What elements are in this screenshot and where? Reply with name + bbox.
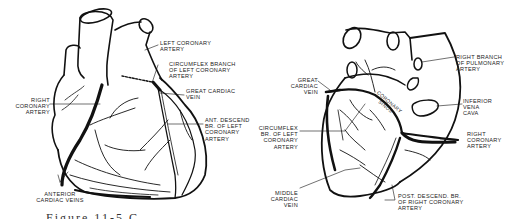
label-right-branch-pulmonary: RIGHT BRANCH OF PULMONARY ARTERY xyxy=(456,54,504,73)
label-great-cardiac-vein-posterior: GREAT CARDIAC VEIN xyxy=(280,77,318,96)
label-ant-descend-br: ANT. DESCEND BR. OF LEFT CORONARY ARTERY xyxy=(205,117,250,142)
figure-caption: Figure 11-5 C xyxy=(46,211,139,219)
label-circumflex-branch: CIRCUMFLEX BRANCH OF LEFT CORONARY ARTER… xyxy=(169,61,236,80)
label-post-descend-br: POST. DESCEND. BR. OF RIGHT CORONARY ART… xyxy=(398,193,464,212)
heart-diagrams xyxy=(0,0,509,219)
label-right-coronary-artery: RIGHT CORONARY ARTERY xyxy=(12,97,50,116)
label-anterior-cardiac-veins: ANTERIOR CARDIAC VEINS xyxy=(30,191,90,203)
label-circumflex-br: CIRCUMFLEX BR. OF LEFT CORONARY ARTERY xyxy=(256,125,298,150)
label-great-cardiac-vein: GREAT CARDIAC VEIN xyxy=(186,88,235,100)
anterior-heart xyxy=(52,6,206,199)
label-left-coronary-artery: LEFT CORONARY ARTERY xyxy=(160,40,211,52)
label-right-coronary-artery-posterior: RIGHT CORONARY ARTERY xyxy=(467,131,502,150)
label-inferior-vena-cava: INFERIOR VENA CAVA xyxy=(463,98,492,117)
label-middle-cardiac-vein: MIDDLE CARDIAC VEIN xyxy=(266,190,298,209)
